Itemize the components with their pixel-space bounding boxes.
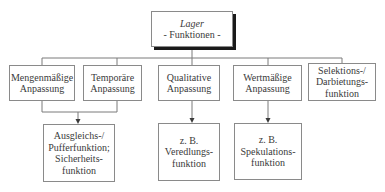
box-qualitative-anpassung: Qualitative Anpassung [158,65,220,101]
box-label-line: funktion [325,88,359,100]
box-label-line: Anpassung [167,83,211,95]
box-label-line: funktion [251,157,285,169]
box-label-line: z. B. [259,134,278,146]
box-label-line: funktion [62,165,96,177]
box-label-line: Veredlungs- [165,146,213,158]
box-label-line: Anpassung [245,83,289,95]
box-label-line: Wertmäßige [243,72,292,84]
box-label-line: Anpassung [20,83,64,95]
box-label-line: Ausgleichs-/ [54,130,105,142]
box-label-line: Mengenmäßige [11,72,73,84]
root-title: Lager [180,18,204,30]
box-spekulationsfunktion: z. B. Spekulations- funktion [234,123,302,180]
box-label-line: z. B. [180,135,199,147]
box-label-line: Pufferfunktion; [48,142,109,154]
box-veredlungsfunktion: z. B. Veredlungs- funktion [158,123,220,181]
box-wertmaessige-anpassung: Wertmäßige Anpassung [233,65,302,101]
box-label-line: Spekulations- [241,146,296,158]
box-temporaere-anpassung: Temporäre Anpassung [83,65,142,101]
box-label-line: Temporäre [91,72,134,84]
box-mengenmaessige-anpassung: Mengenmäßige Anpassung [9,65,75,101]
box-label-line: Darbietungs- [316,76,368,88]
root-box-lager-funktionen: Lager - Funktionen - [151,11,233,47]
box-label-line: Anpassung [90,83,134,95]
box-selektions-darbietungsfunktion: Selektions-/ Darbietungs- funktion [308,63,376,101]
box-label-line: Qualitative [167,72,211,84]
box-label-line: funktion [172,158,206,170]
box-label-line: Sicherheits- [55,153,103,165]
box-label-line: Selektions-/ [318,65,366,77]
box-ausgleichs-pufferfunktion: Ausgleichs-/ Pufferfunktion; Sicherheits… [43,124,115,182]
root-subtitle: - Funktionen - [163,29,220,41]
